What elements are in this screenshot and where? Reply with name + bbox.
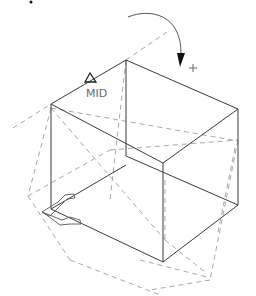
crosshair-plus-icon — [189, 64, 197, 72]
curved-rotate-arrow-icon — [128, 13, 185, 67]
grip-dot — [30, 1, 33, 4]
snap-label: MID — [86, 87, 107, 100]
drawing-viewport[interactable]: MID — [0, 0, 256, 296]
solid-box[interactable] — [51, 60, 238, 262]
